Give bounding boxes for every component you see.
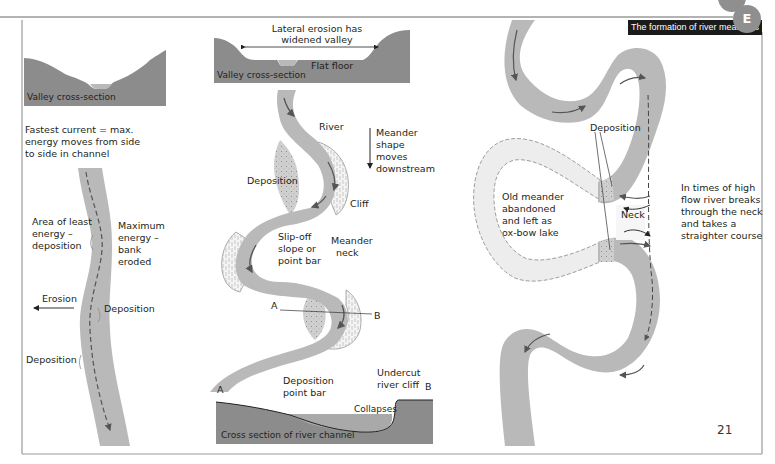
section-badge: E <box>733 5 761 33</box>
meander-moves-1: Meander <box>376 127 418 139</box>
middle-deposition-label: Deposition <box>247 175 298 187</box>
point-a-label: A <box>271 300 278 312</box>
max-energy-3: bank <box>118 244 141 256</box>
xsec-a-label: A <box>217 384 224 396</box>
high-flow-5: straighter course <box>681 230 762 242</box>
left-valley-label: Valley cross-section <box>27 92 116 104</box>
river-meanders-diagram: The formation of river meanders E Valley… <box>0 0 775 464</box>
intro-text-2: energy moves from side <box>25 136 140 148</box>
high-flow-3: through the neck <box>681 206 763 218</box>
deposition-point-bar-2: point bar <box>283 387 326 399</box>
meander-moves-2: shape <box>376 139 405 151</box>
right-deposition-label: Deposition <box>590 122 641 134</box>
intro-text-1: Fastest current = max. <box>25 124 134 136</box>
river-label: River <box>319 121 344 133</box>
slip-off-1: Slip-off <box>278 231 311 243</box>
xsec-b-label: B <box>425 381 432 393</box>
cross-section-label: Cross section of river channel <box>221 430 355 442</box>
point-b-label: B <box>374 310 381 322</box>
lateral-erosion-2: widened valley <box>262 34 372 46</box>
least-energy-1: Area of least <box>32 216 92 228</box>
max-energy-1: Maximum <box>118 220 165 232</box>
page-number: 21 <box>717 423 732 437</box>
erosion-label: Erosion <box>42 293 77 305</box>
flat-floor-label: Flat floor <box>311 60 353 72</box>
high-flow-1: In times of high <box>681 182 755 194</box>
old-meander-3: and left as <box>502 215 552 227</box>
intro-text-3: to side in channel <box>25 148 109 160</box>
undercut-2: river cliff <box>377 379 419 391</box>
slip-off-2: slope or <box>278 243 316 255</box>
max-energy-4: eroded <box>118 256 151 268</box>
meander-neck-1: Meander <box>331 235 373 247</box>
middle-valley-label: Valley cross-section <box>217 70 306 82</box>
cliff-label: Cliff <box>350 198 368 210</box>
high-flow-4: and takes a <box>681 218 736 230</box>
old-meander-1: Old meander <box>502 191 564 203</box>
collapses-label: Collapses <box>354 404 397 416</box>
old-meander-2: abandoned <box>502 203 555 215</box>
high-flow-2: flow river breaks <box>681 194 760 206</box>
deposition-right-label: Deposition <box>104 303 155 315</box>
neck-label: Neck <box>621 209 645 221</box>
old-meander-4: ox-bow lake <box>502 227 559 239</box>
slip-off-3: point bar <box>278 255 321 267</box>
deposition-point-bar-1: Deposition <box>283 375 334 387</box>
diagram-graphics <box>0 0 775 464</box>
meander-neck-2: neck <box>336 247 359 259</box>
max-energy-2: energy – <box>118 232 159 244</box>
meander-moves-4: downstream <box>376 163 435 175</box>
undercut-1: Undercut <box>377 367 421 379</box>
meander-moves-3: moves <box>376 151 407 163</box>
least-energy-2: energy – <box>32 228 73 240</box>
lateral-erosion-1: Lateral erosion has <box>262 23 372 35</box>
deposition-left-label: Deposition <box>26 354 77 366</box>
least-energy-3: deposition <box>32 240 82 252</box>
